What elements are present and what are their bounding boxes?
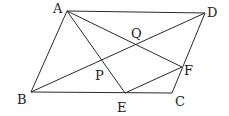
segments xyxy=(31,11,205,93)
segment-AB xyxy=(31,11,67,92)
segment-BD xyxy=(31,13,205,92)
label-F: F xyxy=(184,63,193,78)
segment-AF xyxy=(67,11,182,67)
label-Q: Q xyxy=(131,26,142,41)
label-B: B xyxy=(17,92,27,107)
label-P: P xyxy=(95,68,104,83)
label-D: D xyxy=(207,5,217,20)
label-C: C xyxy=(175,94,185,109)
segment-BC xyxy=(31,92,172,93)
segment-CD xyxy=(172,13,205,93)
label-E: E xyxy=(117,100,127,115)
segment-DA xyxy=(67,11,205,13)
geometry-diagram: A D Q F P B E C xyxy=(0,0,229,116)
label-A: A xyxy=(52,1,63,16)
